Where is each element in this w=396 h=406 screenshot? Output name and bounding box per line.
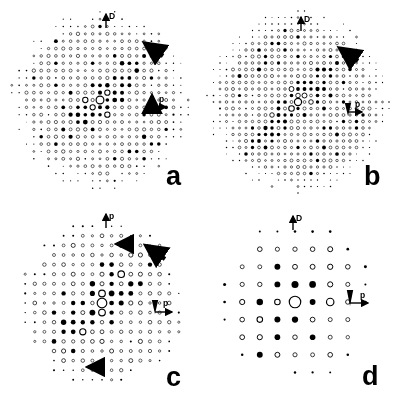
panel-d-label: d bbox=[362, 363, 379, 390]
diffraction-figure: Dp a Dp b pp c Dp d bbox=[0, 0, 396, 406]
panel-b: Dp b bbox=[198, 0, 396, 203]
panel-c: pp c bbox=[0, 203, 198, 406]
panel-d: Dp d bbox=[198, 203, 396, 406]
panel-a: Dp a bbox=[0, 0, 198, 203]
panel-c-label: c bbox=[166, 364, 181, 391]
panel-a-label: a bbox=[166, 163, 181, 190]
panel-b-label: b bbox=[364, 163, 381, 190]
